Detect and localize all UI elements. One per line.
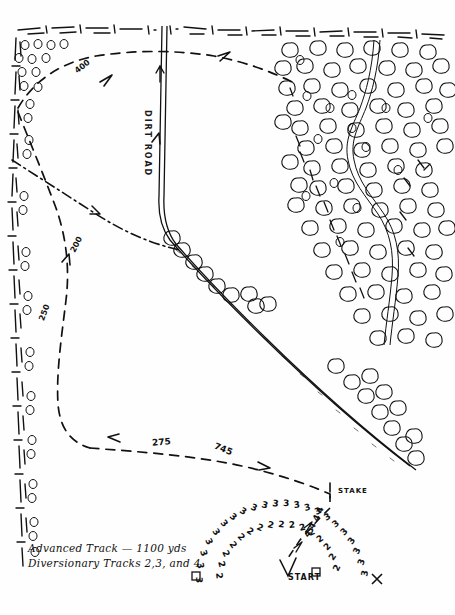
legend-line-2: Diversionary Tracks 2,3, and 4 xyxy=(28,556,201,571)
svg-text:3: 3 xyxy=(249,502,259,514)
svg-text:2: 2 xyxy=(331,563,343,573)
diversionary-track-arrows xyxy=(90,206,100,214)
svg-text:3: 3 xyxy=(359,569,370,577)
left-hedge-bushes xyxy=(19,100,39,557)
svg-text:2: 2 xyxy=(327,551,339,562)
svg-text:2: 2 xyxy=(321,541,332,553)
start-label: START xyxy=(288,573,321,582)
svg-text:3: 3 xyxy=(351,546,363,556)
top-hedge-boundary xyxy=(18,25,444,39)
orchard-small-bushes xyxy=(296,56,432,247)
svg-text:2: 2 xyxy=(214,572,225,579)
svg-text:3: 3 xyxy=(272,498,280,509)
svg-text:3: 3 xyxy=(355,557,367,566)
svg-text:3: 3 xyxy=(203,536,215,546)
dirt-road xyxy=(159,26,416,470)
advanced-track-dashed xyxy=(18,52,330,495)
svg-text:4: 4 xyxy=(314,506,325,515)
svg-text:3: 3 xyxy=(293,499,300,510)
diversionary-track-dotdash xyxy=(12,160,180,250)
legend-line-1: Advanced Track — 1100 yds xyxy=(28,541,201,556)
road-crossing-arrow xyxy=(156,66,164,82)
svg-text:2: 2 xyxy=(288,520,295,530)
distance-label-275: 275 xyxy=(152,436,172,448)
svg-text:2: 2 xyxy=(216,560,227,569)
svg-text:2: 2 xyxy=(255,522,265,534)
stake-label: STAKE xyxy=(338,487,368,495)
tracking-exercise-map: 3 3 3 3 3 3 3 3 3 3 3 3 3 3 3 3 3 3 3 3 … xyxy=(0,0,455,615)
svg-text:2: 2 xyxy=(220,548,232,558)
diversionary-arc-3: 3 3 3 3 3 3 3 3 3 3 3 3 3 3 3 3 3 3 3 3 … xyxy=(194,498,370,583)
road-label: DIRT ROAD xyxy=(143,110,152,177)
svg-text:2: 2 xyxy=(278,519,285,530)
svg-text:3: 3 xyxy=(283,498,290,508)
svg-text:3: 3 xyxy=(303,502,311,513)
map-drawing: 3 3 3 3 3 3 3 3 3 3 3 3 3 3 3 3 3 3 3 3 … xyxy=(0,0,455,615)
top-hedge-bushes xyxy=(15,40,68,92)
svg-text:3: 3 xyxy=(260,499,269,510)
diversionary-arc-2: 2 2 2 2 2 2 2 2 2 2 2 2 2 2 2 2 xyxy=(214,519,343,579)
svg-text:2: 2 xyxy=(267,519,275,530)
orchard-tree-cluster xyxy=(275,41,455,347)
roadside-trees xyxy=(164,231,424,465)
map-legend: Advanced Track — 1100 yds Diversionary T… xyxy=(28,541,201,571)
svg-text:3: 3 xyxy=(346,535,358,546)
svg-text:3: 3 xyxy=(238,505,249,517)
